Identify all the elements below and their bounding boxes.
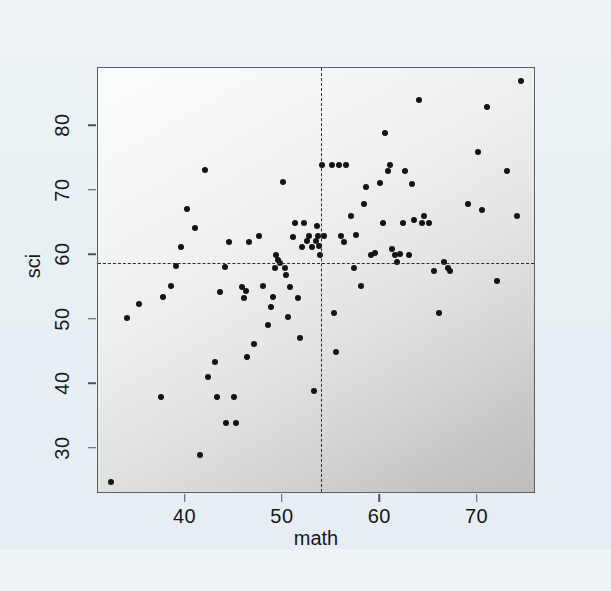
data-point bbox=[475, 149, 481, 155]
data-point bbox=[256, 233, 262, 239]
data-point bbox=[290, 234, 296, 240]
data-point bbox=[197, 452, 203, 458]
y-tick-mark bbox=[88, 253, 96, 255]
data-point bbox=[494, 278, 500, 284]
data-point bbox=[348, 213, 354, 219]
data-point bbox=[168, 283, 174, 289]
data-point bbox=[436, 310, 442, 316]
y-tick-label: 50 bbox=[51, 307, 74, 330]
data-point bbox=[341, 239, 347, 245]
y-tick-mark bbox=[88, 318, 96, 320]
data-point bbox=[331, 310, 337, 316]
data-point bbox=[158, 394, 164, 400]
data-point bbox=[184, 206, 190, 212]
data-point bbox=[285, 314, 291, 320]
y-tick-label: 40 bbox=[51, 372, 74, 395]
data-point bbox=[387, 162, 393, 168]
data-point bbox=[514, 213, 520, 219]
data-point bbox=[244, 354, 250, 360]
data-point bbox=[402, 168, 408, 174]
data-point bbox=[223, 420, 229, 426]
mean-sci-reference-line bbox=[98, 263, 534, 264]
data-point bbox=[409, 181, 415, 187]
data-point bbox=[504, 168, 510, 174]
data-point bbox=[222, 264, 228, 270]
scatter-plot-figure: 40506070 304050607080 math sci bbox=[0, 0, 611, 549]
scanned-page-background: 40506070 304050607080 math sci bbox=[0, 0, 611, 549]
data-point bbox=[416, 97, 422, 103]
data-point bbox=[336, 162, 342, 168]
data-point bbox=[287, 284, 293, 290]
data-point bbox=[205, 374, 211, 380]
data-point bbox=[270, 294, 276, 300]
data-point bbox=[363, 184, 369, 190]
data-point bbox=[385, 168, 391, 174]
data-point bbox=[441, 259, 447, 265]
data-point bbox=[214, 394, 220, 400]
data-point bbox=[406, 252, 412, 258]
data-point bbox=[389, 246, 395, 252]
data-point bbox=[314, 223, 320, 229]
data-point bbox=[268, 304, 274, 310]
data-point bbox=[233, 420, 239, 426]
data-point bbox=[518, 78, 524, 84]
data-point bbox=[173, 263, 179, 269]
data-point bbox=[382, 130, 388, 136]
data-point bbox=[484, 104, 490, 110]
data-point bbox=[282, 265, 288, 271]
data-point bbox=[358, 283, 364, 289]
data-point bbox=[301, 220, 307, 226]
y-tick-mark bbox=[88, 124, 96, 126]
y-tick-label: 70 bbox=[51, 178, 74, 201]
data-point bbox=[231, 394, 237, 400]
data-point bbox=[243, 288, 249, 294]
x-axis-label: math bbox=[294, 527, 338, 550]
data-point bbox=[426, 220, 432, 226]
data-point bbox=[377, 180, 383, 186]
data-point bbox=[212, 359, 218, 365]
data-point bbox=[411, 217, 417, 223]
y-tick-mark bbox=[88, 447, 96, 449]
data-point bbox=[265, 322, 271, 328]
data-point bbox=[226, 239, 232, 245]
data-point bbox=[280, 179, 286, 185]
data-point bbox=[419, 220, 425, 226]
x-tick-label: 50 bbox=[270, 505, 293, 528]
x-tick-label: 70 bbox=[465, 505, 488, 528]
data-point bbox=[317, 252, 323, 258]
data-point bbox=[321, 233, 327, 239]
data-point bbox=[351, 265, 357, 271]
y-tick-mark bbox=[88, 189, 96, 191]
data-point bbox=[295, 295, 301, 301]
data-point bbox=[319, 162, 325, 168]
data-point bbox=[306, 233, 312, 239]
data-point bbox=[217, 289, 223, 295]
x-tick-mark bbox=[379, 494, 381, 502]
data-point bbox=[178, 244, 184, 250]
data-point bbox=[292, 220, 298, 226]
data-point bbox=[431, 268, 437, 274]
data-point bbox=[124, 315, 130, 321]
x-tick-label: 40 bbox=[173, 505, 196, 528]
data-point bbox=[202, 167, 208, 173]
y-tick-mark bbox=[88, 383, 96, 385]
data-point bbox=[421, 213, 427, 219]
data-point bbox=[333, 349, 339, 355]
data-point bbox=[311, 388, 317, 394]
x-tick-mark bbox=[184, 494, 186, 502]
data-point bbox=[272, 265, 278, 271]
data-point bbox=[479, 207, 485, 213]
data-point bbox=[343, 162, 349, 168]
data-point bbox=[297, 335, 303, 341]
x-tick-mark bbox=[281, 494, 283, 502]
data-point bbox=[283, 272, 289, 278]
y-tick-label: 30 bbox=[51, 436, 74, 459]
y-tick-label: 80 bbox=[51, 113, 74, 136]
data-point bbox=[304, 238, 310, 244]
data-point bbox=[447, 268, 453, 274]
data-point bbox=[299, 244, 305, 250]
data-point bbox=[160, 294, 166, 300]
data-point bbox=[108, 479, 114, 485]
y-tick-label: 60 bbox=[51, 243, 74, 266]
data-point bbox=[309, 244, 315, 250]
